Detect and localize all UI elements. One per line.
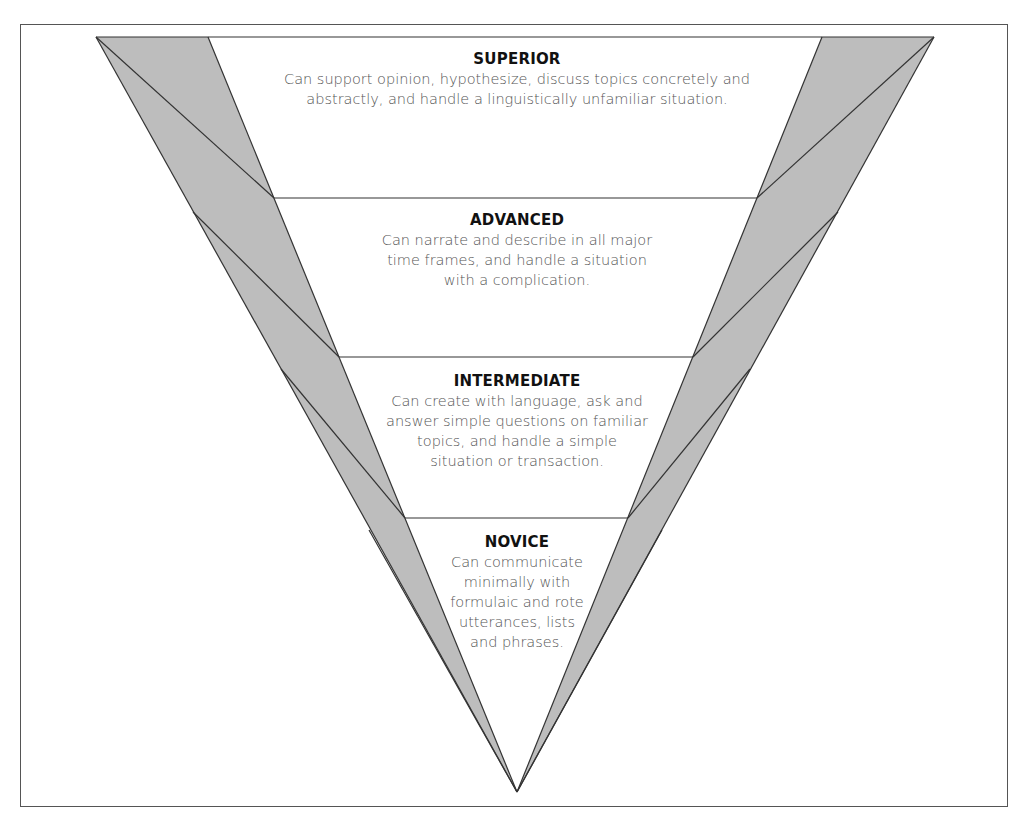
level-intermediate: INTERMEDIATE Can create with language, a…: [370, 372, 664, 471]
level-description-line: time frames, and handle a situation: [340, 250, 694, 270]
level-description-line: Can support opinion, hypothesize, discus…: [260, 69, 774, 89]
level-description-line: situation or transaction.: [370, 451, 664, 471]
level-description-line: Can communicate: [420, 552, 614, 572]
level-advanced: ADVANCED Can narrate and describe in all…: [340, 211, 694, 290]
level-description-line: formulaic and rote: [420, 592, 614, 612]
level-title: INTERMEDIATE: [370, 372, 664, 391]
level-description-line: answer simple questions on familiar: [370, 411, 664, 431]
level-description-line: utterances, lists: [420, 612, 614, 632]
level-description-line: abstractly, and handle a linguistically …: [260, 89, 774, 109]
level-title: NOVICE: [420, 533, 614, 552]
level-description-line: Can narrate and describe in all major: [340, 230, 694, 250]
level-description-line: topics, and handle a simple: [370, 431, 664, 451]
level-description-line: and phrases.: [420, 632, 614, 652]
level-title: SUPERIOR: [260, 50, 774, 69]
level-description-line: Can create with language, ask and: [370, 391, 664, 411]
level-title: ADVANCED: [340, 211, 694, 230]
level-description-line: minimally with: [420, 572, 614, 592]
level-novice: NOVICE Can communicate minimally with fo…: [420, 533, 614, 652]
level-superior: SUPERIOR Can support opinion, hypothesiz…: [260, 50, 774, 109]
level-description-line: with a complication.: [340, 270, 694, 290]
